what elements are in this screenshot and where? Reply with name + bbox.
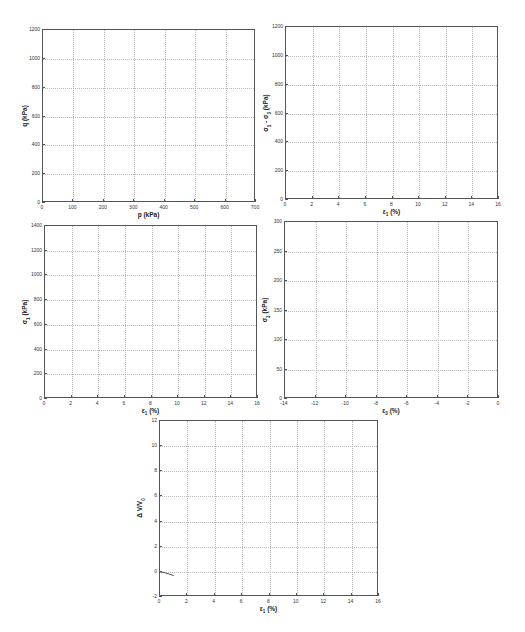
gridline-horizontal (45, 374, 256, 375)
x-tick-label: 8 (390, 201, 393, 207)
x-tick-label: 100 (68, 204, 76, 210)
y-tick-label: 100 (274, 336, 284, 342)
y-tick-label: 600 (275, 110, 285, 116)
y-tick-mark (285, 55, 288, 56)
x-tick-mark (351, 593, 352, 596)
x-tick-label: 4 (212, 598, 215, 604)
y-tick-mark (159, 521, 162, 522)
y-axis-label: σ1 (kPa) (21, 299, 30, 324)
y-tick-mark (285, 199, 288, 200)
y-tick-mark (44, 299, 47, 300)
gridline-vertical (339, 27, 340, 198)
y-tick-label: 0 (279, 395, 284, 401)
x-tick-label: 8 (267, 598, 270, 604)
y-tick-label: 200 (274, 277, 284, 283)
y-tick-mark (44, 349, 47, 350)
x-tick-label: 16 (375, 598, 381, 604)
y-tick-label: 0 (154, 568, 159, 574)
x-tick-label: 200 (99, 204, 107, 210)
y-tick-mark (284, 251, 287, 252)
y-tick-label: 1000 (272, 52, 285, 58)
y-tick-mark (159, 495, 162, 496)
x-tick-label: 16 (495, 201, 501, 207)
x-tick-mark (257, 395, 258, 398)
x-tick-label: 16 (254, 400, 260, 406)
y-tick-label: 1400 (31, 222, 44, 228)
x-tick-label: 14 (228, 400, 234, 406)
x-tick-mark (378, 593, 379, 596)
x-axis-label: ε1 (%) (142, 407, 160, 416)
gridline-horizontal (285, 370, 497, 371)
x-tick-mark (365, 196, 366, 199)
x-tick-mark (177, 395, 178, 398)
gridline-horizontal (45, 300, 256, 301)
y-tick-mark (42, 173, 45, 174)
y-tick-mark (159, 596, 162, 597)
gridline-horizontal (286, 56, 497, 57)
gridline-vertical (313, 27, 314, 198)
x-tick-mark (194, 199, 195, 202)
y-axis-label: q (kPa) (21, 105, 28, 127)
y-tick-label: 50 (276, 366, 284, 372)
x-tick-label: -8 (373, 400, 377, 406)
x-tick-label: -6 (404, 400, 408, 406)
x-tick-label: 400 (160, 204, 168, 210)
y-tick-label: -2 (153, 593, 159, 599)
x-tick-mark (255, 199, 256, 202)
x-tick-label: -10 (342, 400, 349, 406)
x-tick-label: 6 (122, 400, 125, 406)
x-axis-label: p (kPa) (138, 211, 160, 218)
y-tick-label: 800 (32, 84, 42, 90)
gridline-vertical (316, 222, 317, 397)
x-tick-mark (269, 593, 270, 596)
gridline-vertical (134, 30, 135, 201)
x-axis-label: ε3 (%) (382, 407, 400, 416)
gridline-horizontal (286, 142, 497, 143)
y-tick-label: 800 (275, 81, 285, 87)
x-tick-mark (97, 395, 98, 398)
y-tick-mark (44, 225, 47, 226)
gridline-horizontal (285, 311, 497, 312)
x-tick-mark (214, 593, 215, 596)
plot-area (159, 420, 378, 596)
gridline-vertical (165, 30, 166, 201)
x-tick-mark (445, 196, 446, 199)
x-tick-label: -2 (465, 400, 469, 406)
gridline-horizontal (43, 145, 254, 146)
y-tick-label: 6 (154, 492, 159, 498)
gridline-horizontal (286, 171, 497, 172)
y-tick-mark (284, 339, 287, 340)
x-tick-label: 10 (293, 598, 299, 604)
y-tick-label: 600 (34, 321, 44, 327)
x-tick-label: 10 (415, 201, 421, 207)
x-tick-label: 12 (442, 201, 448, 207)
y-tick-mark (44, 324, 47, 325)
y-tick-mark (42, 29, 45, 30)
gridline-horizontal (285, 340, 497, 341)
y-tick-label: 4 (154, 518, 159, 524)
y-tick-mark (159, 445, 162, 446)
x-tick-mark (241, 593, 242, 596)
gridline-vertical (226, 30, 227, 201)
x-tick-label: 12 (201, 400, 207, 406)
gridline-vertical (195, 30, 196, 201)
gridline-vertical (472, 27, 473, 198)
y-tick-label: 12 (151, 417, 159, 423)
gridline-horizontal (285, 281, 497, 282)
y-tick-label: 800 (34, 296, 44, 302)
plot-area (42, 29, 255, 202)
y-tick-label: 250 (274, 248, 284, 254)
gridline-vertical (446, 27, 447, 198)
y-tick-mark (285, 84, 288, 85)
x-tick-mark (133, 199, 134, 202)
y-tick-label: 8 (154, 467, 159, 473)
gridline-horizontal (43, 88, 254, 89)
y-axis-label: σ3 (kPa) (261, 297, 270, 322)
x-tick-mark (225, 199, 226, 202)
gridline-vertical (438, 222, 439, 397)
x-tick-label: 600 (220, 204, 228, 210)
y-tick-mark (285, 26, 288, 27)
plot-area (44, 225, 257, 398)
x-tick-label: 8 (149, 400, 152, 406)
y-tick-label: 0 (39, 395, 44, 401)
